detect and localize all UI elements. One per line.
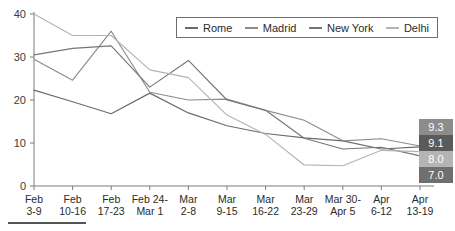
legend-item-delhi[interactable]: Delhi	[386, 22, 429, 34]
y-tick-label: 40	[14, 8, 26, 20]
legend-item-rome[interactable]: Rome	[185, 22, 232, 34]
y-axis: 010203040	[14, 8, 34, 192]
line-chart: 010203040 Feb3-9Feb10-16Feb17-23Feb 24-M…	[0, 0, 455, 231]
legend-item-madrid[interactable]: Madrid	[245, 22, 297, 34]
legend-swatch-icon	[185, 27, 198, 29]
x-tick-label: Mar 30-Apr 5	[325, 193, 362, 217]
value-badge: 7.0	[419, 167, 453, 183]
x-tick-label: Mar9-15	[216, 193, 237, 217]
y-tick-label: 20	[14, 94, 26, 106]
legend-label: Rome	[203, 22, 232, 34]
legend-label: Delhi	[404, 22, 429, 34]
legend-label: Madrid	[263, 22, 297, 34]
footer-accent-rule	[8, 222, 86, 224]
x-tick-label: Mar23-29	[291, 193, 318, 217]
series-line-madrid	[34, 31, 420, 146]
y-tick-label: 0	[20, 180, 26, 192]
x-tick-label: Feb17-23	[98, 193, 125, 217]
value-badge: 9.3	[419, 119, 453, 135]
y-tick-label: 30	[14, 51, 26, 63]
legend-label: New York	[327, 22, 373, 34]
x-tick-label: Apr6-12	[371, 193, 392, 217]
legend-swatch-icon	[386, 27, 399, 29]
chart-legend: RomeMadridNew YorkDelhi	[176, 17, 438, 38]
x-tick-label: Feb 24-Mar 1	[132, 193, 169, 217]
value-badge: 8.0	[419, 151, 453, 167]
end-value-badges: 9.39.18.07.0	[419, 119, 453, 183]
value-badge: 9.1	[419, 135, 453, 151]
y-tick-label: 10	[14, 137, 26, 149]
x-tick-group: Feb3-9Feb10-16Feb17-23Feb 24-Mar 1Mar2-8…	[25, 186, 434, 217]
x-tick-label: Mar16-22	[252, 193, 279, 217]
legend-item-new-york[interactable]: New York	[309, 22, 373, 34]
x-tick-label: Apr13-19	[407, 193, 434, 217]
legend-swatch-icon	[245, 27, 258, 29]
y-tick-group: 010203040	[14, 8, 34, 192]
x-tick-label: Feb10-16	[59, 193, 86, 217]
legend-swatch-icon	[309, 27, 322, 29]
x-tick-label: Feb3-9	[25, 193, 43, 217]
x-tick-label: Mar2-8	[179, 193, 198, 217]
